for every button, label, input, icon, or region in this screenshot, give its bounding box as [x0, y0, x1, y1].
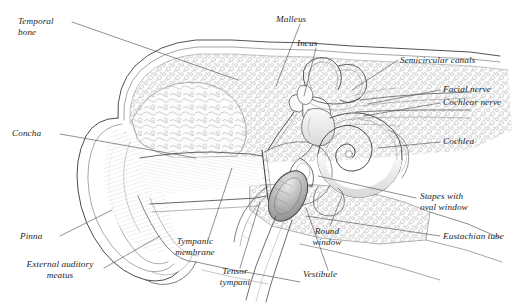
label-pinna: Pinna [20, 231, 42, 242]
label-facial-nerve: Facial nerve [443, 84, 491, 95]
label-tensor-tympani: Tensor tympani [208, 266, 262, 287]
label-malleus: Malleus [276, 14, 306, 25]
label-external-auditory-meatus: External auditory meatus [8, 259, 112, 280]
vestibule-shape [302, 108, 335, 146]
label-stapes-with-oval-window: Stapes with oval window [420, 191, 468, 212]
label-round-window: Round window [302, 226, 352, 247]
label-cochlea: Cochlea [443, 136, 474, 147]
label-tympanic-membrane: Tympanic membrane [162, 236, 228, 257]
label-semicircular-canals: Semicircular canals [400, 55, 475, 66]
label-cochlear-nerve: Cochlear nerve [443, 97, 501, 108]
label-eustachian-tube: Eustachian tube [443, 231, 504, 242]
ear-anatomy-figure: Temporal bone Malleus Incus Semicircular… [0, 0, 532, 307]
label-incus: Incus [297, 38, 317, 49]
label-temporal-bone: Temporal bone [18, 16, 54, 37]
label-vestibule: Vestibule [303, 269, 337, 280]
label-concha: Concha [12, 128, 41, 139]
